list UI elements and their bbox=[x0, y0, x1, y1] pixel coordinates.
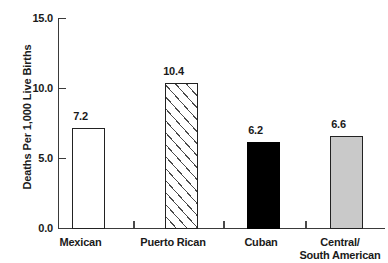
y-tick-label-0: 0.0 bbox=[7, 223, 53, 234]
x-category-line1: Puerto Rican bbox=[140, 236, 205, 248]
bar-chart: Deaths Per 1,000 Live Births 15.0 10.0 5… bbox=[0, 0, 388, 263]
x-category-label-puerto-rican: Puerto Rican bbox=[125, 236, 221, 249]
y-tick-label-10: 10.0 bbox=[7, 83, 53, 94]
x-category-label-central-south-american: Central/ South American bbox=[292, 236, 388, 262]
bar-value-mexican: 7.2 bbox=[56, 111, 105, 122]
bar-central-south-american[interactable] bbox=[330, 136, 363, 229]
bar-value-central-south-american: 6.6 bbox=[314, 119, 363, 130]
y-tick-label-15: 15.0 bbox=[7, 13, 53, 24]
bar-value-puerto-rican: 10.4 bbox=[149, 66, 198, 77]
bar-mexican[interactable] bbox=[72, 128, 105, 229]
x-category-line1: Central/ bbox=[320, 236, 359, 248]
x-category-line1: Mexican bbox=[59, 236, 101, 248]
x-category-line2: South American bbox=[292, 249, 388, 262]
bar-puerto-rican[interactable] bbox=[165, 83, 198, 229]
y-axis-ticks: 15.0 10.0 5.0 0.0 bbox=[0, 0, 53, 263]
bar-cuban[interactable] bbox=[247, 142, 280, 229]
bar-value-cuban: 6.2 bbox=[231, 125, 280, 136]
x-category-line1: Cuban bbox=[244, 236, 277, 248]
x-category-label-mexican: Mexican bbox=[40, 236, 121, 249]
y-tick-label-5: 5.0 bbox=[7, 153, 53, 164]
x-category-label-cuban: Cuban bbox=[222, 236, 300, 249]
